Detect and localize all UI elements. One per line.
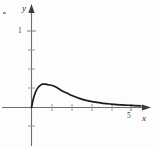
plot-area bbox=[0, 0, 153, 148]
x-axis-arrowhead bbox=[142, 104, 151, 110]
data-curve bbox=[32, 84, 141, 107]
y-axis-label: y bbox=[22, 4, 26, 13]
y-axis-arrowhead bbox=[28, 4, 34, 13]
x-axis-label: x bbox=[142, 114, 146, 123]
y-tick-label-1: 1 bbox=[18, 27, 22, 35]
x-tick-label-5: 5 bbox=[127, 112, 131, 120]
graph-figure: y x 1 5 bbox=[0, 0, 153, 148]
